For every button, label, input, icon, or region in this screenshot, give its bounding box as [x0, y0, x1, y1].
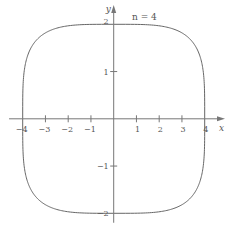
y-axis-arrow-icon — [111, 5, 116, 13]
y-tick-label: 1 — [104, 68, 109, 77]
x-tick-label: −4 — [16, 125, 28, 134]
x-tick-label: 1 — [135, 125, 140, 134]
x-tick-label: 3 — [180, 125, 185, 134]
x-axis-arrow-icon — [217, 116, 225, 121]
x-ticks: −4−3−2−11234 — [16, 115, 208, 134]
y-tick-label: 2 — [104, 17, 109, 26]
x-tick-label: −3 — [39, 125, 51, 134]
x-tick-label: −1 — [84, 125, 96, 134]
n-annotation: n = 4 — [132, 12, 157, 22]
x-tick-label: 4 — [203, 125, 208, 134]
x-axis-label: x — [219, 123, 224, 133]
x-tick-label: −2 — [61, 125, 73, 134]
y-tick-label: −1 — [97, 162, 109, 171]
x-tick-label: 2 — [158, 125, 163, 134]
y-axis-label: y — [105, 4, 112, 14]
superellipse-plot: −4−3−2−11234 21−1−2 x y n = 4 — [0, 0, 235, 231]
y-tick-label: −2 — [97, 209, 109, 218]
